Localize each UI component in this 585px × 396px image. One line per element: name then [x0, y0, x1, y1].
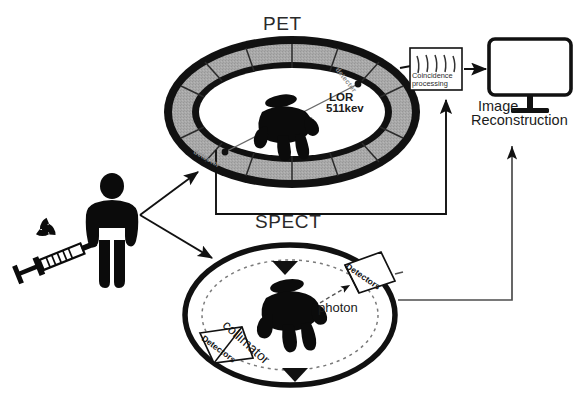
arrow-patient-to-pet — [140, 172, 198, 215]
pet-title: PET — [263, 14, 302, 33]
processing-box-line2: processing — [412, 80, 448, 88]
source-patient-icon — [86, 173, 139, 288]
spect-title: SPECT — [255, 212, 321, 231]
arrow-patient-to-spect — [140, 215, 212, 258]
syringe-icon — [12, 234, 99, 284]
spect-detector-lead — [395, 272, 403, 274]
radiation-trefoil-icon — [35, 218, 59, 240]
arrow-spect-to-reconstruction — [398, 146, 512, 300]
diagram-vector-layer — [0, 0, 585, 396]
reconstruction-label-line2: Reconstruction — [471, 113, 568, 128]
diagram-canvas: PET SPECT detector detector LOR 511kev C… — [0, 0, 585, 396]
spect-photon-label: photon — [318, 301, 358, 314]
lor-label-line2: 511kev — [326, 103, 364, 115]
